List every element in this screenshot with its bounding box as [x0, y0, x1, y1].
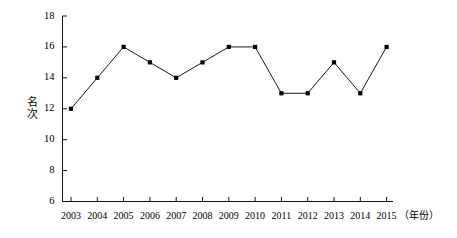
- line-chart: 名次 2003: 122004: 142005: 162006: 152007:…: [0, 0, 457, 238]
- data-line: [71, 47, 387, 109]
- data-point-marker: 2004: 14: [95, 76, 99, 80]
- y-tick-label: 12: [33, 103, 55, 114]
- data-point-marker: 2007: 14: [174, 76, 178, 80]
- y-tick-label: 10: [33, 134, 55, 145]
- y-tick-label: 14: [33, 72, 55, 83]
- data-point-marker: 2009: 16: [227, 45, 231, 49]
- data-point-marker: 2006: 15: [148, 60, 152, 64]
- data-point-marker: 2010: 16: [253, 45, 257, 49]
- y-tick-label: 16: [33, 41, 55, 52]
- data-point-marker: 2005: 16: [122, 45, 126, 49]
- data-point-marker: 2003: 12: [69, 107, 73, 111]
- data-point-marker: 2013: 15: [332, 60, 336, 64]
- x-axis-unit-note: （年份）: [399, 211, 439, 221]
- data-point-marker: 2008: 15: [200, 60, 204, 64]
- y-tick-label: 6: [33, 196, 55, 207]
- data-point-marker: 2012: 13: [306, 91, 310, 95]
- y-tick-label: 8: [33, 165, 55, 176]
- x-axis-ticks: [71, 197, 387, 202]
- data-point-marker: 2014: 13: [358, 91, 362, 95]
- data-point-marker: 2015: 16: [385, 45, 389, 49]
- y-tick-label: 18: [33, 11, 55, 22]
- y-axis-ticks: [63, 16, 68, 202]
- plot-area: 2003: 122004: 142005: 162006: 152007: 14…: [0, 0, 457, 238]
- data-point-marker: 2011: 13: [279, 91, 283, 95]
